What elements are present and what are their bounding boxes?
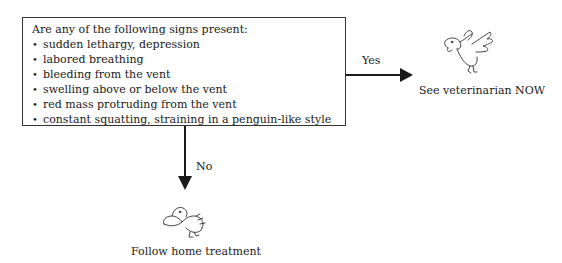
see-veterinarian-outcome: See veterinarian NOW <box>419 84 545 97</box>
follow-home-treatment-outcome: Follow home treatment <box>131 245 261 258</box>
no-label: No <box>196 160 212 173</box>
yes-arrow <box>346 68 413 82</box>
resting-bird-icon <box>160 202 208 242</box>
distressed-bird-icon <box>440 26 500 78</box>
yes-label: Yes <box>362 54 380 67</box>
no-arrow <box>178 126 192 190</box>
